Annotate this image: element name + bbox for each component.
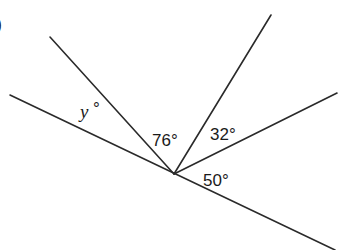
angle-label-50: 50° xyxy=(203,171,229,190)
angle-label-32: 32° xyxy=(210,125,236,144)
angle-label-y: y xyxy=(78,101,89,122)
ray-upper-left xyxy=(50,37,174,174)
angle-label-y-degree: ° xyxy=(93,99,100,118)
angle-label-76: 76° xyxy=(152,131,178,150)
angle-diagram: y ° 76° 32° 50° xyxy=(0,0,351,250)
